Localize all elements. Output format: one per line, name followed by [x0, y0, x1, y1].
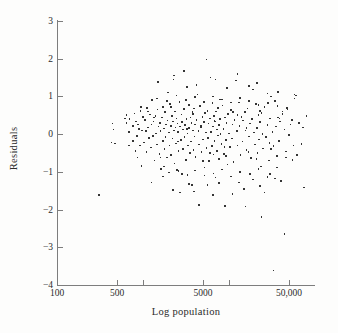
scatter-point [257, 152, 259, 154]
y-tick-mark [58, 247, 63, 248]
scatter-point [267, 176, 269, 178]
scatter-point [234, 119, 236, 121]
scatter-point [192, 130, 194, 132]
scatter-point [159, 153, 161, 155]
scatter-point [132, 125, 134, 127]
scatter-point [191, 184, 193, 186]
scatter-point [262, 133, 264, 135]
scatter-point [150, 147, 152, 149]
scatter-point [197, 94, 199, 96]
scatter-point [160, 168, 162, 170]
scatter-plot-figure: 3210−1−2−3−4 100500500050,000 Residuals … [0, 0, 338, 333]
scatter-point [140, 110, 142, 112]
scatter-point [215, 111, 217, 113]
scatter-point [204, 175, 206, 177]
scatter-point [202, 160, 204, 162]
scatter-point [202, 139, 204, 141]
scatter-point [186, 128, 188, 130]
scatter-point [193, 149, 195, 151]
scatter-point [216, 129, 218, 131]
scatter-point [269, 142, 271, 144]
scatter-point [213, 115, 215, 117]
scatter-point [98, 194, 100, 196]
scatter-point [136, 135, 138, 137]
scatter-point [285, 157, 287, 159]
scatter-point [232, 111, 234, 113]
scatter-point [264, 106, 266, 108]
scatter-point [137, 124, 139, 126]
scatter-point [293, 145, 295, 147]
scatter-point [284, 233, 286, 235]
scatter-point [175, 127, 177, 129]
scatter-point [188, 127, 190, 129]
scatter-point [301, 143, 303, 145]
scatter-point [253, 132, 255, 134]
scatter-point [288, 134, 290, 136]
scatter-point [239, 125, 241, 127]
scatter-point [155, 133, 157, 135]
scatter-point [182, 148, 184, 150]
scatter-point [204, 167, 206, 169]
scatter-point [243, 188, 245, 190]
scatter-point [273, 270, 275, 272]
scatter-point [174, 111, 176, 113]
scatter-point [262, 148, 264, 150]
scatter-point [230, 102, 232, 104]
scatter-point [182, 129, 184, 131]
scatter-point [183, 70, 185, 72]
scatter-point [192, 111, 194, 113]
scatter-point [181, 121, 183, 123]
scatter-point [224, 117, 226, 119]
scatter-point [214, 121, 216, 123]
scatter-point [218, 124, 220, 126]
scatter-point [191, 122, 193, 124]
scatter-point [126, 114, 128, 116]
scatter-point [179, 192, 181, 194]
scatter-point [183, 108, 185, 110]
scatter-point [223, 128, 225, 130]
scatter-point [270, 148, 272, 150]
scatter-point [124, 118, 126, 120]
scatter-point [172, 138, 174, 140]
scatter-point [162, 140, 164, 142]
scatter-point [244, 111, 246, 113]
scatter-point [161, 117, 163, 119]
y-tick-mark [58, 210, 63, 211]
scatter-point [172, 121, 174, 123]
scatter-point [174, 163, 176, 165]
scatter-point [261, 216, 263, 218]
scatter-point [113, 129, 115, 131]
scatter-point [194, 124, 196, 126]
scatter-point [231, 138, 233, 140]
scatter-point [277, 117, 279, 119]
x-tick-mark [143, 280, 144, 285]
scatter-point [260, 166, 262, 168]
scatter-point [200, 127, 202, 129]
scatter-point [269, 118, 271, 120]
scatter-point [171, 115, 173, 117]
y-tick-label: 0 [31, 129, 53, 139]
y-tick-mark [58, 285, 63, 286]
scatter-point [227, 164, 229, 166]
scatter-point [212, 102, 214, 104]
scatter-point [185, 99, 187, 101]
scatter-point [151, 99, 153, 101]
scatter-point [152, 135, 154, 137]
scatter-point [183, 148, 185, 150]
scatter-point [192, 113, 194, 115]
scatter-point [181, 173, 183, 175]
scatter-point [194, 170, 196, 172]
scatter-point [176, 95, 178, 97]
x-tick-label: 100 [50, 288, 64, 299]
scatter-point [164, 148, 166, 150]
scatter-point [306, 115, 308, 117]
scatter-point [252, 179, 254, 181]
scatter-point [160, 130, 162, 132]
scatter-point [165, 124, 167, 126]
y-tick-label: −1 [31, 167, 53, 177]
scatter-point [187, 145, 189, 147]
scatter-point [178, 150, 180, 152]
scatter-point [175, 143, 177, 145]
x-tick-label: 50,000 [276, 288, 302, 299]
scatter-point [188, 183, 190, 185]
